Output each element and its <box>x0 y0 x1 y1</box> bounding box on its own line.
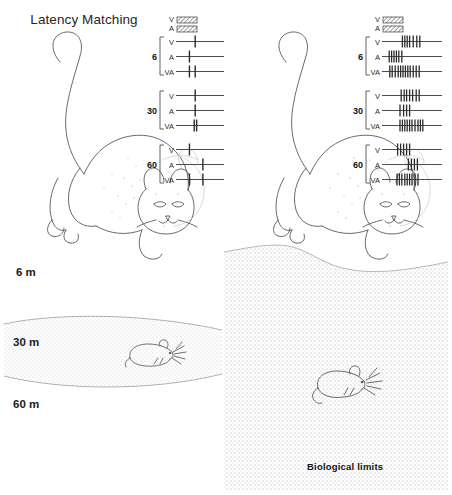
distance-label-60m: 60 m <box>13 398 39 410</box>
panel-title-latency-matching: Latency Matching <box>14 12 154 27</box>
raster-plot-latency-matching: VA6VAVA30VAVA60VAVA <box>152 12 224 177</box>
svg-text:A: A <box>169 24 174 33</box>
svg-text:V: V <box>169 92 174 101</box>
svg-text:V: V <box>375 15 380 24</box>
mouse-illustration-right <box>310 362 390 410</box>
svg-text:VA: VA <box>165 68 174 77</box>
svg-text:A: A <box>375 161 380 170</box>
svg-text:60: 60 <box>353 160 363 170</box>
svg-text:A: A <box>169 53 174 62</box>
svg-text:A: A <box>375 107 380 116</box>
svg-text:A: A <box>169 107 174 116</box>
svg-text:V: V <box>169 15 174 24</box>
svg-text:V: V <box>375 92 380 101</box>
biological-limits-caption: Biological limits <box>307 461 383 472</box>
svg-text:A: A <box>375 24 380 33</box>
svg-text:VA: VA <box>165 176 174 185</box>
svg-text:30: 30 <box>147 106 157 116</box>
svg-text:A: A <box>375 53 380 62</box>
svg-text:VA: VA <box>371 176 380 185</box>
hatched-bar-a <box>383 26 403 32</box>
panel-latency-matching: Latency Matching <box>0 0 226 495</box>
svg-text:6: 6 <box>152 52 157 62</box>
distance-label-6m: 6 m <box>16 266 36 278</box>
svg-text:V: V <box>375 38 380 47</box>
svg-text:VA: VA <box>165 122 174 131</box>
svg-text:A: A <box>169 161 174 170</box>
raster-plot-discharge-train-overlap: VA6VAVA30VAVA60VAVA <box>358 12 442 177</box>
svg-text:6: 6 <box>358 52 363 62</box>
svg-text:V: V <box>169 146 174 155</box>
hatched-bar-v <box>383 17 403 23</box>
svg-text:60: 60 <box>147 160 157 170</box>
hatched-bar-v <box>177 17 197 23</box>
mouse-illustration-left <box>124 336 196 376</box>
svg-text:V: V <box>169 38 174 47</box>
svg-text:30: 30 <box>353 106 363 116</box>
svg-text:VA: VA <box>371 68 380 77</box>
svg-text:V: V <box>375 146 380 155</box>
distance-label-30m: 30 m <box>13 336 39 348</box>
svg-text:VA: VA <box>371 122 380 131</box>
hatched-bar-a <box>177 26 197 32</box>
